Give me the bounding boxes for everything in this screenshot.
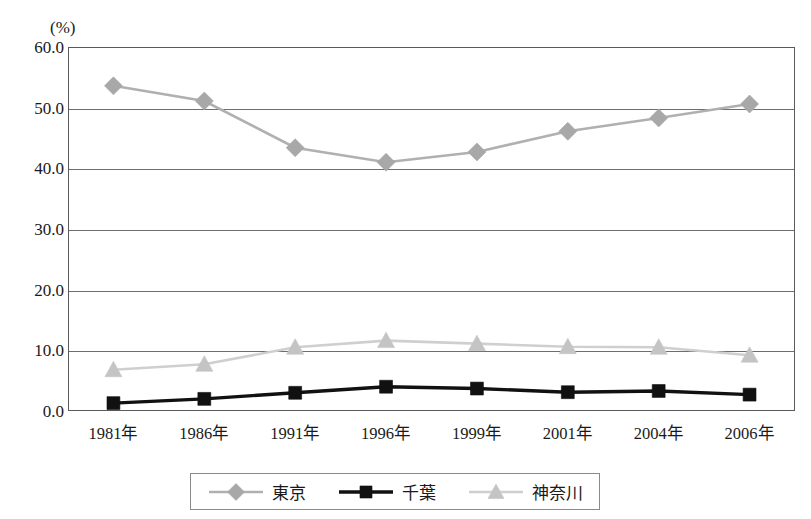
data-point-marker bbox=[650, 109, 668, 127]
x-axis-tick-label: 1981年 bbox=[88, 426, 138, 443]
legend-label: 神奈川 bbox=[532, 479, 583, 504]
data-point-marker bbox=[652, 385, 665, 398]
legend-item-tokyo[interactable]: 東京 bbox=[207, 479, 306, 504]
legend-label: 東京 bbox=[272, 479, 306, 504]
x-axis-tick-label: 2004年 bbox=[634, 426, 684, 443]
legend-item-chiba[interactable]: 千葉 bbox=[337, 479, 436, 504]
y-axis-tick-label: 30.0 bbox=[6, 221, 64, 238]
data-point-marker bbox=[198, 392, 211, 405]
x-axis-tick-label: 2006年 bbox=[725, 426, 775, 443]
data-point-marker bbox=[741, 95, 759, 113]
data-point-marker bbox=[107, 397, 120, 410]
legend-item-kanagawa[interactable]: 神奈川 bbox=[467, 479, 583, 504]
data-point-marker bbox=[470, 382, 483, 395]
legend-marker-square-icon bbox=[337, 482, 395, 502]
x-axis-tick-label: 1986年 bbox=[179, 426, 229, 443]
y-axis-tick-label: 10.0 bbox=[6, 342, 64, 359]
x-axis-tick-label: 1996年 bbox=[361, 426, 411, 443]
y-axis-tick-label: 60.0 bbox=[6, 39, 64, 56]
data-point-marker bbox=[286, 139, 304, 157]
y-axis-tick-label: 0.0 bbox=[6, 403, 64, 420]
data-point-marker bbox=[377, 153, 395, 171]
plot-series-svg bbox=[68, 47, 795, 411]
y-axis-tick-label: 50.0 bbox=[6, 99, 64, 116]
y-axis-unit-label: (%) bbox=[50, 18, 75, 38]
y-axis-tick-labels: 0.010.020.030.040.050.060.0 bbox=[0, 47, 64, 411]
series-kanagawa bbox=[105, 332, 758, 377]
x-axis-tick-labels: 1981年1986年1991年1996年1999年2001年2004年2006年 bbox=[68, 420, 795, 454]
x-axis-tick-label: 2001年 bbox=[543, 426, 593, 443]
x-axis-tick-label: 1999年 bbox=[452, 426, 502, 443]
y-axis-tick-label: 20.0 bbox=[6, 281, 64, 298]
data-point-marker bbox=[559, 122, 577, 140]
series-chiba bbox=[107, 380, 756, 409]
series-tokyo bbox=[104, 77, 758, 171]
data-point-marker bbox=[468, 143, 486, 161]
x-axis-tick-label: 1991年 bbox=[270, 426, 320, 443]
data-point-marker bbox=[743, 388, 756, 401]
chart-legend: 東京千葉神奈川 bbox=[190, 473, 600, 510]
legend-label: 千葉 bbox=[402, 479, 436, 504]
data-point-marker bbox=[561, 386, 574, 399]
legend-marker-diamond-icon bbox=[207, 482, 265, 502]
data-point-marker bbox=[289, 386, 302, 399]
chart-container: (%) 0.010.020.030.040.050.060.0 1981年198… bbox=[0, 0, 811, 519]
y-axis-tick-label: 40.0 bbox=[6, 160, 64, 177]
legend-marker-triangle-icon bbox=[467, 482, 525, 502]
data-point-marker bbox=[104, 77, 122, 95]
data-point-marker bbox=[195, 92, 213, 110]
data-point-marker bbox=[380, 380, 393, 393]
